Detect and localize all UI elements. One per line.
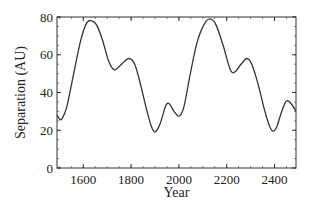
y-axis-ticks: 020406080 <box>40 10 296 176</box>
y-tick-label: 60 <box>40 47 53 62</box>
chart: 020406080 16001800200022002400 Year Sepa… <box>0 0 312 212</box>
x-tick-label: 2200 <box>214 172 240 187</box>
y-tick-label: 0 <box>47 161 54 176</box>
x-tick-label: 1800 <box>118 172 144 187</box>
y-tick-label: 20 <box>40 123 53 138</box>
y-tick-label: 80 <box>40 10 53 25</box>
x-tick-label: 2400 <box>261 172 287 187</box>
x-tick-label: 1600 <box>70 172 96 187</box>
x-axis-label: Year <box>164 185 190 200</box>
y-tick-label: 40 <box>40 85 53 100</box>
x-axis-ticks: 16001800200022002400 <box>59 17 287 187</box>
separation-line <box>57 19 296 132</box>
y-axis-label: Separation (AU) <box>13 46 29 139</box>
